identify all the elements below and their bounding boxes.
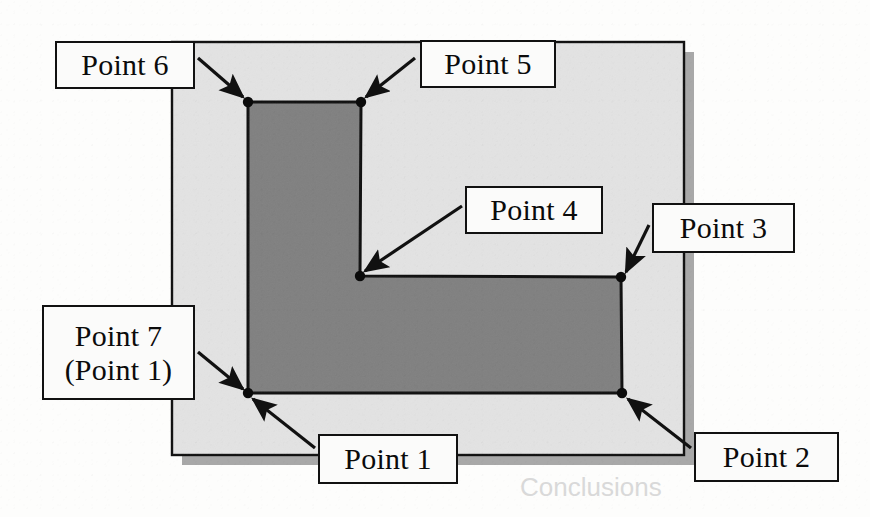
callout-label-point-6[interactable]: Point 6: [55, 41, 195, 89]
callout-label-text: Point 4: [490, 193, 577, 227]
callout-label-text: Point 6: [81, 48, 168, 82]
callout-label-text: Point 5: [444, 47, 531, 81]
vertex-dot-p5: [356, 97, 366, 107]
vertex-dot-p3: [616, 272, 626, 282]
figure-canvas: Conclusions Point 6Point 5Point 4Point 3…: [0, 0, 870, 517]
vertex-dot-p6: [243, 97, 253, 107]
callout-label-subtext: (Point 1): [65, 353, 173, 387]
callout-label-text: Point 3: [680, 211, 767, 245]
callout-label-text: Point 7: [75, 319, 162, 353]
vertex-dot-p2: [617, 388, 627, 398]
callout-label-text: Point 2: [723, 440, 810, 474]
callout-label-text: Point 1: [344, 442, 431, 476]
vertex-dot-p4: [355, 271, 365, 281]
callout-label-point-5[interactable]: Point 5: [420, 40, 556, 88]
callout-label-point-4[interactable]: Point 4: [465, 186, 603, 234]
callout-label-point-2[interactable]: Point 2: [694, 432, 839, 482]
callout-label-point-7[interactable]: Point 7(Point 1): [42, 305, 195, 400]
callout-label-point-1[interactable]: Point 1: [318, 434, 458, 484]
callout-label-point-3[interactable]: Point 3: [652, 203, 795, 253]
vertex-dot-p1: [243, 388, 253, 398]
ghost-text-bottom: Conclusions: [520, 472, 662, 502]
